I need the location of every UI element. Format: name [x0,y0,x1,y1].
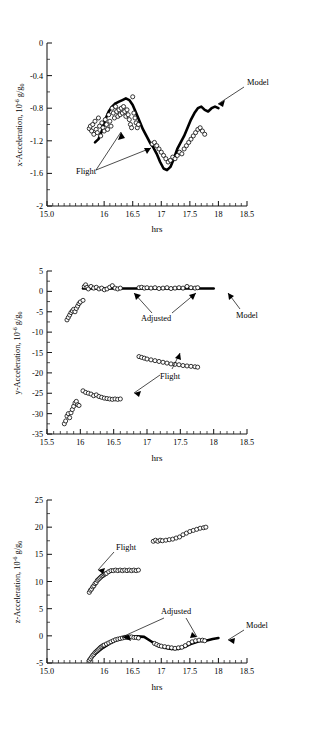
data-point-marker [103,118,107,122]
flight-markers-y-acceleration [62,355,199,426]
y-tick-label: 20 [35,523,43,532]
flight-markers-z-acceleration [87,525,208,594]
y-axis-ticks-y-acceleration [47,271,52,434]
y-axis-title-y-panel: y-Acceleration, 10-6 g/g0 [12,311,23,394]
data-point-marker [100,121,104,125]
data-point-marker [177,363,181,367]
data-point-marker [204,525,208,529]
data-point-marker [126,113,130,117]
data-point-marker [203,639,207,643]
x-tick-label: 16 [100,667,108,676]
y-tick-label: -30 [32,410,43,419]
data-point-marker [114,105,118,109]
data-point-marker [165,286,169,290]
y-tick-label: 0 [39,287,43,296]
data-point-marker [177,286,181,290]
data-point-marker [161,286,165,290]
x-axis-ticks-x-acceleration [47,201,247,206]
annotation-flight-label-x: Flight [76,167,97,176]
x-tick-label: 16.5 [126,210,140,219]
data-point-marker [157,286,161,290]
chart-y-acceleration: 50-5-10-15-20-25-30-35 15.51616.51717.51… [0,245,309,490]
y-axis-ticks-z-acceleration [47,500,52,663]
x-tick-label: 18 [210,438,218,447]
y-tick-label: 5 [39,267,43,276]
data-point-marker [161,360,165,364]
y-tick-label: -1.6 [30,169,43,178]
data-point-marker [132,111,136,115]
y-axis-title-sub-y: 0 [17,311,23,314]
data-point-marker [181,286,185,290]
y-tick-label: -20 [32,369,43,378]
annotation-model-label-x: Model [247,78,270,87]
x-tick-label: 17.5 [183,210,197,219]
x-tick-label: 18 [214,667,222,676]
data-point-marker [136,122,140,126]
data-point-marker [181,363,185,367]
chart-panel-z-acceleration: 2520151050-5 15.01616.51717.51818.5 Flig… [0,490,309,735]
y-tick-label: 5 [39,605,43,614]
data-point-marker [153,286,157,290]
y-axis-title-main-x: x-Acceleration, 10 [15,104,24,166]
annotation-flight-x: Flight [76,132,151,176]
data-point-marker [77,403,81,407]
y-tick-label: 0 [39,632,43,641]
y-axis-title-sub-x: 0 [19,83,25,86]
data-point-marker [64,419,68,423]
annotation-adjusted-label-y: Adjusted [141,314,172,323]
y-tick-label: -0.4 [30,72,43,81]
data-point-marker [145,286,149,290]
x-tick-label: 16 [100,210,108,219]
annotation-adjusted-y: Adjusted [134,293,196,323]
y-axis-title-main-y: y-Acceleration, 10 [13,332,22,394]
y-tick-label: -0.8 [30,104,43,113]
y-tick-label: 15 [35,550,43,559]
axes-x-acceleration [47,43,247,206]
x-tick-label: 17.5 [183,667,197,676]
axes-y-acceleration [47,271,247,434]
data-point-marker [133,116,137,120]
data-point-marker [104,122,108,126]
data-point-marker [93,119,97,123]
x-axis-title-z-panel: hrs [152,682,163,692]
y-axis-title-tail-z: g/g [13,543,22,557]
data-point-marker [169,362,173,366]
annotation-model-label-z: Model [246,621,269,630]
data-point-marker [196,286,200,290]
data-point-marker [189,364,193,368]
y-tick-label: -25 [32,389,43,398]
annotation-flight-label-y: Flight [160,372,181,381]
x-tick-labels-z-acceleration: 15.01616.51717.51818.5 [40,667,254,676]
x-tick-label: 15.0 [40,210,54,219]
x-tick-label: 16.5 [107,438,121,447]
annotation-model-label-y: Model [236,311,259,320]
x-tick-label: 17.5 [173,438,187,447]
y-tick-label: 0 [39,39,43,48]
x-tick-labels-x-acceleration: 15.01616.51717.51818.5 [40,210,254,219]
data-point-marker [127,118,131,122]
x-axis-ticks-z-acceleration [47,658,247,663]
x-tick-labels-y-acceleration: 15.51616.51717.51818.5 [40,438,254,447]
data-point-marker [118,286,122,290]
annotation-adjusted-label-z: Adjusted [161,607,192,616]
data-point-marker [169,286,173,290]
data-point-marker [130,126,134,130]
svg-text:x-Acceleration, 10-6 g/g0: x-Acceleration, 10-6 g/g0 [14,83,25,166]
x-tick-label: 17 [157,667,165,676]
y-axis-title-main-z: z-Acceleration, 10 [13,561,22,623]
x-tick-label: 16.5 [126,667,140,676]
data-point-marker [99,134,103,138]
annotation-model-x: Model [218,78,270,107]
data-point-marker [109,124,113,128]
data-point-marker [107,113,111,117]
y-axis-title-tail-y: g/g [13,314,22,328]
x-tick-label: 18.5 [240,438,254,447]
x-axis-ticks-y-acceleration [47,429,247,434]
data-point-marker [136,568,140,572]
data-point-marker [125,108,129,112]
x-tick-label: 15.5 [40,438,54,447]
y-tick-label: -1.2 [30,137,43,146]
y-tick-labels-y-acceleration: 50-5-10-15-20-25-30-35 [32,267,43,439]
x-axis-title-x-panel: hrs [152,224,163,234]
y-tick-label: -15 [32,349,43,358]
